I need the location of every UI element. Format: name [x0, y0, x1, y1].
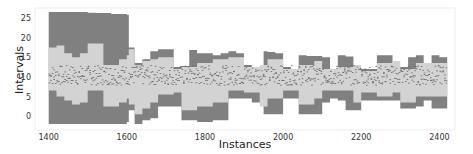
center-dot [150, 82, 152, 83]
center-dot [402, 71, 404, 72]
center-dot [310, 79, 312, 80]
center-dot [260, 79, 262, 80]
center-dot [255, 69, 257, 70]
center-dot [363, 82, 365, 83]
center-dot [75, 82, 77, 83]
center-dot [433, 81, 435, 82]
center-dot [355, 72, 357, 73]
center-dot [214, 73, 216, 74]
center-dot [361, 74, 363, 75]
center-dot [142, 83, 144, 84]
center-dot [157, 77, 159, 78]
center-dot [119, 83, 121, 84]
center-dot [175, 84, 177, 85]
center-dot [263, 76, 265, 77]
center-dot [263, 74, 265, 75]
center-dot [103, 71, 105, 72]
center-dot [86, 70, 88, 71]
center-dot [67, 74, 69, 75]
center-dot [305, 80, 307, 81]
center-dot [260, 76, 262, 77]
center-dot [200, 77, 202, 78]
center-dot [136, 67, 138, 68]
center-dot [346, 72, 348, 73]
center-dot [344, 69, 346, 70]
center-dot [435, 81, 437, 82]
center-dot [88, 68, 90, 69]
center-dot [393, 71, 395, 72]
center-dot [171, 77, 173, 78]
center-dot [263, 75, 265, 76]
center-dot [443, 71, 445, 72]
center-dot [122, 78, 124, 79]
center-dot [141, 65, 143, 66]
center-dot [63, 81, 65, 82]
center-dot [272, 77, 274, 78]
center-dot [343, 72, 345, 73]
center-dot [52, 67, 54, 68]
center-dot [283, 80, 285, 81]
center-dot [380, 69, 382, 70]
center-dot [396, 68, 398, 69]
center-dot [261, 71, 263, 72]
center-dot [371, 70, 373, 71]
center-dot [269, 77, 271, 78]
center-dot [111, 84, 113, 85]
center-dot [285, 83, 287, 84]
center-dot [53, 77, 55, 78]
center-dot [399, 79, 401, 80]
center-dot [163, 74, 165, 75]
center-dot [294, 75, 296, 76]
center-dot [144, 74, 146, 75]
center-dot [328, 79, 330, 80]
center-dot [318, 79, 320, 80]
center-dot [435, 76, 437, 77]
center-dot [207, 80, 209, 81]
center-dot [300, 71, 302, 72]
center-dot [407, 79, 409, 80]
center-dot [258, 77, 260, 78]
center-dot [153, 84, 155, 85]
center-dot [325, 78, 327, 79]
center-dot [228, 79, 230, 80]
center-dot [82, 68, 84, 69]
y-tick-label: 0 [26, 112, 31, 121]
center-dot [352, 83, 354, 84]
center-dot [133, 67, 135, 68]
center-dot [269, 80, 271, 81]
center-dot [258, 70, 260, 71]
center-dot [178, 80, 180, 81]
center-dot [78, 77, 80, 78]
center-dot [432, 82, 434, 83]
center-dot [208, 78, 210, 79]
center-dot [99, 76, 101, 77]
center-dot [441, 67, 443, 68]
center-dot [257, 76, 259, 77]
center-dot [314, 78, 316, 79]
center-dot [266, 71, 268, 72]
center-dot [257, 70, 259, 71]
center-dot [102, 80, 104, 81]
center-dot [100, 69, 102, 70]
center-dot [441, 72, 443, 73]
center-dot [410, 76, 412, 77]
center-dot [344, 71, 346, 72]
center-dot [164, 83, 166, 84]
center-dot [424, 74, 426, 75]
center-dot [167, 84, 169, 85]
center-dot [161, 81, 163, 82]
center-dot [128, 84, 130, 85]
center-dot [328, 81, 330, 82]
center-dot [303, 70, 305, 71]
center-dot [197, 74, 199, 75]
center-dot [444, 80, 446, 81]
center-dot [144, 72, 146, 73]
center-dot [213, 75, 215, 76]
center-dot [324, 77, 326, 78]
center-dot [222, 72, 224, 73]
center-dot [146, 75, 148, 76]
center-dot [94, 66, 96, 67]
center-dot [172, 80, 174, 81]
center-dot [227, 67, 229, 68]
center-dot [311, 66, 313, 67]
